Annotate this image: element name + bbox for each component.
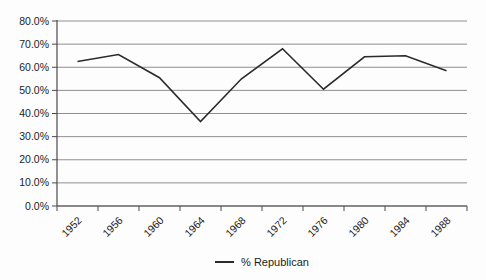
x-axis-tick-label: 1964: [182, 214, 207, 239]
y-axis-tick-label: 80.0%: [19, 15, 49, 27]
legend-label: % Republican: [241, 257, 309, 268]
x-axis-tick-label: 1988: [428, 214, 453, 239]
x-axis-tick-label: 1972: [264, 214, 289, 239]
y-axis-tick-label: 60.0%: [19, 61, 49, 73]
x-axis-tick-label: 1968: [223, 214, 248, 239]
legend: % Republican: [57, 254, 467, 270]
x-axis-tick-label: 1976: [305, 214, 330, 239]
y-axis-tick-label: 50.0%: [19, 84, 49, 96]
y-axis-tick-label: 20.0%: [19, 153, 49, 165]
y-axis-tick-label: 0.0%: [25, 200, 49, 212]
x-axis-tick-label: 1984: [387, 214, 412, 239]
series-line-republican: [78, 49, 447, 122]
y-axis-tick-label: 40.0%: [19, 107, 49, 119]
y-axis-tick-label: 10.0%: [19, 176, 49, 188]
x-axis-tick-label: 1956: [100, 214, 125, 239]
y-axis-tick-label: 70.0%: [19, 38, 49, 50]
legend-line-sample-icon: [215, 261, 234, 263]
x-axis-tick-label: 1980: [346, 214, 371, 239]
y-axis-tick-label: 30.0%: [19, 130, 49, 142]
chart-canvas: 0.0%10.0%20.0%30.0%40.0%50.0%60.0%70.0%8…: [0, 0, 486, 280]
x-axis-tick-label: 1952: [59, 214, 84, 239]
line-chart: 0.0%10.0%20.0%30.0%40.0%50.0%60.0%70.0%8…: [0, 0, 486, 280]
x-axis-tick-label: 1960: [141, 214, 166, 239]
